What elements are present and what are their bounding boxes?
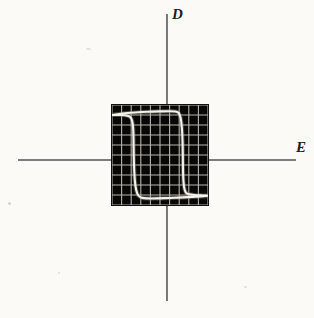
hysteresis-trace: [112, 105, 208, 205]
paper-speckle: [86, 48, 91, 50]
paper-speckle: [8, 202, 11, 205]
hysteresis-figure: D E: [0, 0, 314, 318]
axis-label-D: D: [172, 7, 183, 22]
paper-speckle: [244, 286, 247, 288]
oscilloscope-screen: [112, 105, 208, 205]
axis-label-E: E: [296, 140, 306, 155]
paper-speckle: [58, 272, 60, 274]
